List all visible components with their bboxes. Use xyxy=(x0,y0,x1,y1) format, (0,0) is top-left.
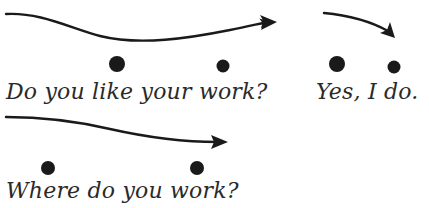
phrase-group-question-2 xyxy=(6,117,228,175)
intonation-arrow-icon xyxy=(324,13,388,31)
phrase-text-answer-1: Yes, I do. xyxy=(316,81,419,103)
intonation-diagram xyxy=(0,0,429,208)
phrase-group-answer-1 xyxy=(324,13,401,74)
stress-dot-small xyxy=(388,61,401,74)
phrase-group-question-1 xyxy=(6,14,277,73)
stress-dot-small xyxy=(217,60,230,73)
intonation-arrow-icon xyxy=(6,14,268,41)
arrowhead-icon xyxy=(380,22,395,38)
stress-dot-medium xyxy=(190,161,204,175)
stress-dot-large xyxy=(329,56,345,72)
stress-dot-medium xyxy=(41,161,55,175)
phrase-text-question-1: Do you like your work? xyxy=(6,81,268,103)
phrase-text-question-2: Where do you work? xyxy=(6,180,239,202)
stress-dot-large xyxy=(109,56,125,72)
intonation-arrow-icon xyxy=(6,117,218,142)
